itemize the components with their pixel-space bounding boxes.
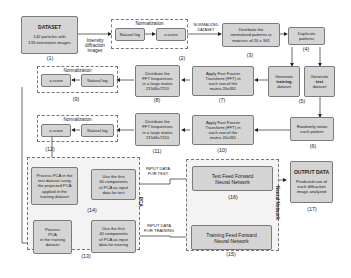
zscore-node-9: z-score — [41, 74, 71, 87]
node-line: image analyzed — [297, 189, 326, 194]
output-data-node: OUTPUT DATA Predicted size of each diffr… — [290, 161, 333, 203]
step-number-15: (15) — [219, 251, 243, 257]
normalization-title-9: Normalization — [37, 68, 118, 73]
node-line: dataset — [277, 84, 291, 89]
node-line: patterns — [299, 36, 314, 41]
node-line: dataset — [46, 242, 60, 247]
node-line: 21546x7220 — [146, 86, 169, 91]
distribute-fft-training-node: Distribute the FFT frequencies in a larg… — [135, 65, 180, 97]
edge-label-input-test: INPUT DATA FOR TEST — [143, 166, 173, 176]
step-number-7: (7) — [212, 97, 232, 103]
generate-test-node: Generate test dataset — [304, 66, 335, 97]
node-line: dataset — [313, 84, 327, 89]
node-line: data for test — [102, 190, 124, 195]
step-number-1: (1) — [40, 55, 60, 61]
node-line: matrix 20x361 — [210, 86, 236, 91]
natural-log-node-2: Natural log — [115, 28, 145, 41]
node-line: each pattern — [300, 129, 323, 134]
generate-training-node: Generate training dataset — [268, 66, 300, 97]
step-number-11: (11) — [145, 148, 169, 154]
edge-label-line: FOR TEST — [143, 171, 173, 176]
fft-training-node: Apply Fast Fourier Transform (FFT) in ea… — [192, 66, 254, 96]
distribute-fft-test-node: Distribute the FFT frequencies in a larg… — [135, 113, 180, 146]
node-line: training dataset — [40, 194, 69, 199]
node-line: 21546x7220 — [146, 135, 169, 140]
duplicate-patterns-node: Duplicate patterns — [288, 27, 325, 45]
fft-test-node: Apply Fast Fourier Transform (FFT) in ea… — [192, 115, 254, 145]
zscore-node-12: z-score — [41, 124, 71, 137]
step-number-16: (16) — [221, 194, 245, 200]
node-line: matrices of 20 x 361 — [232, 38, 270, 43]
dataset-line2: 133 orientation images — [28, 40, 70, 45]
step-number-3: (3) — [240, 52, 260, 58]
edge-label-intensity: Intensity diffraction images — [80, 38, 110, 53]
natural-log-node-12: Natural log — [81, 124, 114, 137]
pca-training-node: Process PCA in the training dataset — [33, 220, 72, 254]
zscore-node-2: z-score — [156, 28, 186, 41]
pca-group-label: PCA — [138, 197, 143, 207]
step-number-14: (14) — [80, 207, 104, 213]
distribute-normalized-node: Distribute the normalized patterns in ma… — [222, 23, 280, 47]
step-number-4: (4) — [296, 46, 316, 52]
step-number-2: (2) — [172, 55, 192, 61]
node-line: data for training — [99, 242, 128, 247]
step-number-10: (10) — [210, 147, 234, 153]
step-number-5: (5) — [292, 98, 312, 104]
edge-label-line: DATASET — [191, 28, 221, 33]
normalization-title-12: Normalization — [37, 117, 118, 122]
dataset-title: DATASET — [38, 25, 61, 30]
node-line: matrix 20x361 — [210, 135, 236, 140]
use40-training-node: Use the first 40 components of PCA as in… — [91, 220, 136, 253]
neural-network-group-label: Neural Network — [275, 186, 280, 220]
step-number-9: (9) — [66, 96, 86, 102]
normalization-title-2: Normalization — [111, 21, 188, 26]
natural-log-node-9: Natural log — [81, 74, 114, 87]
randomly-rotate-node: Randomly rotate each pattern — [290, 117, 334, 141]
dataset-node: DATASET 142 particles with 133 orientati… — [21, 16, 78, 54]
step-number-17: (17) — [300, 206, 324, 212]
use40-test-node: Use the first 40 components of PCA as in… — [91, 169, 136, 200]
edge-label-line: images — [80, 48, 110, 53]
node-line: Neural Network — [215, 179, 249, 185]
edge-label-line: FOR TRAINING — [142, 228, 176, 233]
step-number-12: (12) — [38, 146, 62, 152]
edge-label-normalized: NORMALIZED DATASET — [191, 23, 221, 33]
node-line: Neural Network — [214, 238, 248, 244]
training-nn-node: Training Feed Forward Neural Network — [191, 225, 272, 250]
step-number-8: (8) — [147, 97, 167, 103]
step-number-13: (13) — [74, 253, 98, 259]
pca-test-node: Process PCA in the test dataset using th… — [31, 167, 78, 205]
output-title: OUTPUT DATA — [294, 170, 329, 175]
test-nn-node: Test Feed Forward Neural Network — [192, 166, 273, 191]
step-number-6: (6) — [303, 143, 323, 149]
edge-label-input-training: INPUT DATA FOR TRAINING — [142, 223, 176, 233]
